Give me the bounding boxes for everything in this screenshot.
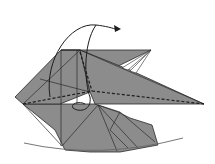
lower-body <box>23 104 158 152</box>
origami-diagram <box>0 0 215 164</box>
paper-model <box>15 50 204 152</box>
left-wing <box>15 50 90 104</box>
arrow-head-icon <box>114 25 121 32</box>
